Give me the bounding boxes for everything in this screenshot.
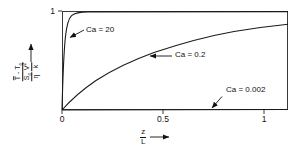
y-axis-title: T - T0 S0 η V2 k <box>5 36 49 106</box>
leader-ca-0-002 <box>212 97 222 109</box>
right-arrow-icon <box>150 133 176 141</box>
y-num-var: T <box>15 75 22 79</box>
figure: 0 0.5 1 1 Ca = 20 Ca = 0.2 Ca = 0.002 T … <box>0 0 304 159</box>
y-den-right-den: k <box>32 63 40 69</box>
x-axis-title: z L <box>140 128 176 146</box>
y-den-left-den: η <box>32 73 40 79</box>
ytick-label-1: 1 <box>44 7 55 16</box>
curve-ca-0-002 <box>62 110 288 111</box>
xtick-label-0-5: 0.5 <box>157 115 169 124</box>
ca-0-002-label: Ca = 0.002 <box>226 86 265 94</box>
y-den-right-num-sup: 2 <box>21 62 27 65</box>
y-num-rest: - T <box>15 65 22 75</box>
curve-ca-0-2 <box>62 24 288 110</box>
leader-ca-20 <box>70 30 84 38</box>
ca-0-2-label: Ca = 0.2 <box>175 51 205 59</box>
y-den-left-num: S <box>24 75 31 80</box>
xtick-label-0: 0 <box>60 115 65 124</box>
x-den: L <box>140 138 146 147</box>
ca-20-label: Ca = 20 <box>86 26 114 34</box>
y-den-right-num: V <box>24 65 31 70</box>
xtick-label-1: 1 <box>262 115 267 124</box>
